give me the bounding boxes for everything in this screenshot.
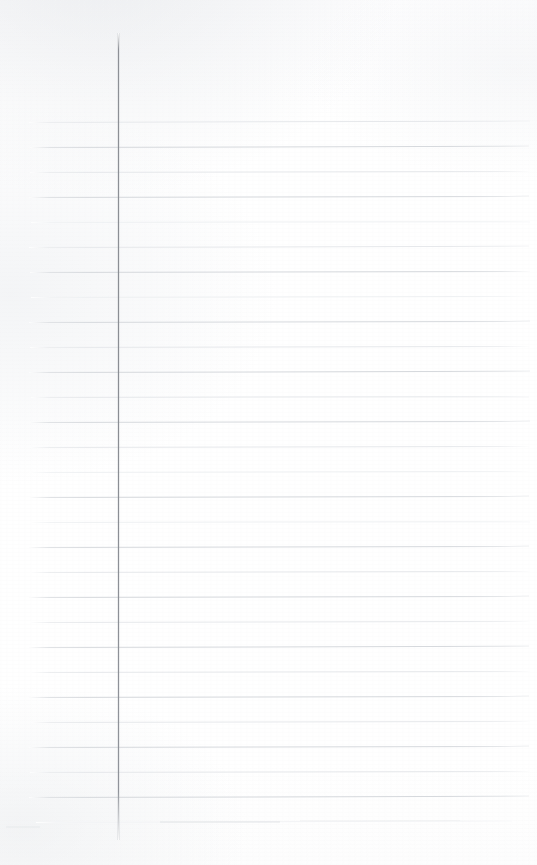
vertical-margin-line xyxy=(118,33,119,840)
scanned-page xyxy=(0,0,537,865)
bottom-right-smear xyxy=(300,820,460,821)
bottom-left-smear xyxy=(6,826,40,828)
bottom-mid-smear xyxy=(160,821,280,823)
page-body-text xyxy=(130,126,522,816)
